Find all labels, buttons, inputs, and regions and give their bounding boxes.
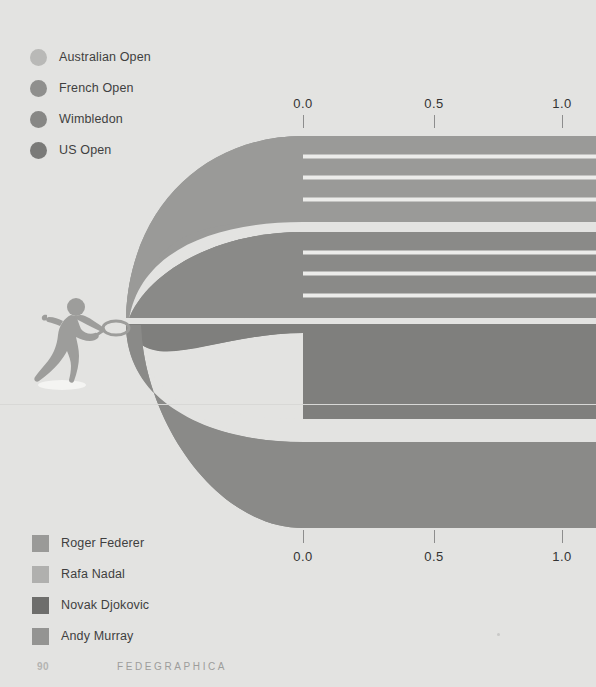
legend-label-rafa-nadal: Rafa Nadal [61,568,125,581]
legend-label-australian-open: Australian Open [59,51,151,64]
circle-swatch-icon [30,142,47,159]
racquet-icon [98,321,129,335]
square-swatch-icon [32,566,49,583]
tournament-legend: Australian Open French Open Wimbledon US… [30,42,151,166]
page-footer: 90 FEDEGRAPHICA [0,657,596,687]
legend-label-andy-murray: Andy Murray [61,630,134,643]
player-shadow [38,380,86,390]
legend-item-roger-federer[interactable]: Roger Federer [32,528,149,559]
circle-swatch-icon [30,49,47,66]
legend-item-australian-open[interactable]: Australian Open [30,42,151,73]
page-fold-hairline [0,404,596,405]
legend-item-us-open[interactable]: US Open [30,135,151,166]
legend-item-andy-murray[interactable]: Andy Murray [32,621,149,652]
legend-item-novak-djokovic[interactable]: Novak Djokovic [32,590,149,621]
tennis-player-silhouette [14,285,144,395]
legend-label-french-open: French Open [59,82,134,95]
circle-swatch-icon [30,80,47,97]
print-speck [497,633,500,636]
legend-item-wimbledon[interactable]: Wimbledon [30,104,151,135]
circle-swatch-icon [30,111,47,128]
legend-label-novak-djokovic: Novak Djokovic [61,599,149,612]
page-number: 90 [37,661,49,672]
square-swatch-icon [32,628,49,645]
legend-item-french-open[interactable]: French Open [30,73,151,104]
legend-label-roger-federer: Roger Federer [61,537,144,550]
player-body [34,298,105,383]
player-legend: Roger Federer Rafa Nadal Novak Djokovic … [32,528,149,652]
legend-label-wimbledon: Wimbledon [59,113,123,126]
legend-label-us-open: US Open [59,144,111,157]
publication-name: FEDEGRAPHICA [117,661,227,672]
square-swatch-icon [32,535,49,552]
legend-item-rafa-nadal[interactable]: Rafa Nadal [32,559,149,590]
infographic-page: Australian Open French Open Wimbledon US… [0,0,596,687]
square-swatch-icon [32,597,49,614]
